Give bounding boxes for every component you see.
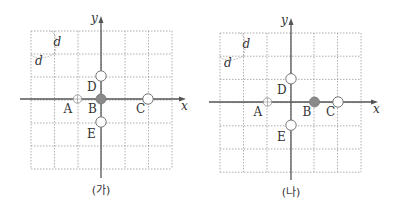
point-label: B — [88, 102, 97, 116]
panel-ga: ddxyABCDE (가) — [0, 0, 197, 209]
point-label: E — [87, 127, 96, 141]
open-point-marker — [286, 120, 296, 130]
point-label: A — [253, 105, 263, 119]
point-label: B — [303, 105, 312, 119]
axes: xy — [20, 11, 188, 178]
filled-point-marker — [96, 94, 106, 104]
point-label: C — [326, 105, 335, 119]
y-axis-arrow-icon — [99, 16, 104, 23]
coordinate-diagram-ga: ddxyABCDE — [0, 0, 197, 209]
axes: xy — [209, 13, 380, 180]
point-e: E — [277, 120, 296, 144]
point-label: A — [63, 102, 73, 116]
point-label: D — [277, 83, 287, 97]
point-d: D — [277, 74, 296, 97]
point-a: A — [63, 95, 82, 116]
point-d: D — [87, 71, 106, 94]
dimension-label-d: d — [243, 37, 251, 51]
open-point-marker — [96, 117, 106, 127]
caption-ga: (가) — [92, 181, 111, 197]
dimension-label-d: d — [35, 54, 43, 68]
point-e: E — [87, 117, 106, 141]
x-axis-label: x — [373, 102, 380, 116]
panel-na: ddxyABCDE (나) — [195, 0, 392, 209]
point-label: C — [136, 102, 145, 116]
point-c: C — [326, 97, 343, 119]
point-label: E — [277, 130, 286, 144]
dimension-label-d: d — [224, 56, 232, 70]
open-point-marker — [286, 74, 296, 84]
x-axis-label: x — [181, 99, 188, 113]
point-b: B — [303, 97, 320, 119]
point-a: A — [253, 98, 272, 119]
y-axis-label: y — [90, 11, 98, 25]
point-c: C — [136, 94, 153, 116]
point-b: B — [88, 94, 106, 116]
open-point-marker — [96, 71, 106, 81]
point-label: D — [87, 80, 97, 94]
dimension-label-d: d — [54, 35, 62, 49]
y-axis-arrow-icon — [289, 18, 294, 25]
caption-na: (나) — [282, 183, 301, 199]
y-axis-label: y — [280, 13, 288, 27]
coordinate-diagram-na: ddxyABCDE — [195, 0, 395, 209]
